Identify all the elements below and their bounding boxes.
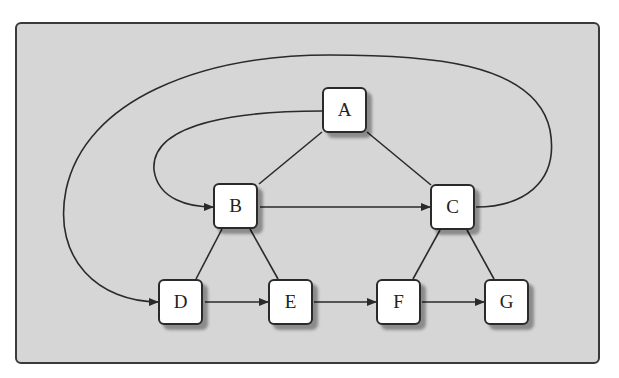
edge-a-b bbox=[259, 132, 322, 184]
node-e[interactable]: E bbox=[268, 279, 313, 325]
node-c-label: C bbox=[446, 196, 459, 218]
edge-c-g bbox=[467, 230, 494, 279]
edge-c-f bbox=[413, 230, 440, 279]
node-f-label: F bbox=[393, 291, 404, 313]
node-b[interactable]: B bbox=[213, 183, 258, 229]
edge-c-to-d-curve bbox=[64, 55, 552, 302]
node-b-label: B bbox=[229, 195, 242, 217]
node-c[interactable]: C bbox=[430, 184, 475, 230]
node-d[interactable]: D bbox=[158, 279, 203, 325]
node-d-label: D bbox=[174, 291, 188, 313]
node-g[interactable]: G bbox=[484, 279, 529, 325]
node-f[interactable]: F bbox=[376, 279, 421, 325]
node-e-label: E bbox=[285, 291, 297, 313]
node-a-label: A bbox=[338, 99, 352, 121]
edge-b-d bbox=[196, 229, 222, 279]
node-g-label: G bbox=[500, 291, 514, 313]
edge-b-e bbox=[250, 229, 278, 279]
node-a[interactable]: A bbox=[322, 87, 367, 133]
edge-a-c bbox=[367, 132, 431, 185]
